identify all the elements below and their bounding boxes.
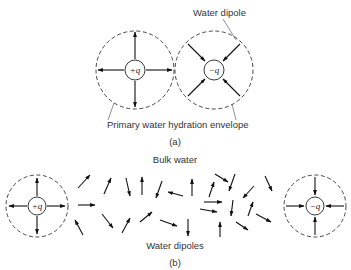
- negative-ion-hydration-shell: −q: [284, 175, 346, 237]
- dipole-arrow-icon: [209, 182, 214, 197]
- hydration-diagram: +q −q Water dipole Primary water hydrati…: [0, 0, 351, 270]
- dipole-arrow-icon: [126, 178, 130, 196]
- hydration-envelope-label: Primary water hydration envelope: [107, 119, 249, 130]
- caption-b: (b): [169, 257, 181, 268]
- dipole-arrow-icon: [75, 220, 83, 235]
- negative-charge-label: −q: [310, 201, 321, 211]
- caption-a: (a): [169, 136, 181, 147]
- dipole-arrow-icon: [236, 222, 248, 230]
- leader-line: [232, 104, 236, 120]
- dipole-arrow-icon: [156, 181, 162, 198]
- dipole-arrow-icon: [243, 186, 254, 198]
- dipole-arrow-icon: [229, 174, 235, 191]
- leader-line: [108, 103, 114, 120]
- dipole-arrow-icon: [265, 176, 272, 191]
- positive-charge-label: +q: [130, 65, 141, 75]
- bulk-water-dipoles: [75, 174, 272, 237]
- dipole-arrow-icon: [102, 214, 113, 228]
- dipole-arrow-icon: [104, 178, 111, 194]
- negative-ion-hydration-shell: −q: [175, 31, 253, 109]
- bulk-water-label: Bulk water: [153, 154, 197, 165]
- dipole-arrow-icon: [168, 192, 183, 196]
- positive-ion-hydration-shell: +q: [6, 175, 68, 237]
- dipole-arrow-icon: [122, 218, 130, 233]
- positive-ion-hydration-shell: +q: [96, 31, 174, 109]
- panel-b: Bulk water +q −q: [6, 154, 346, 268]
- dipole-arrow-icon: [223, 44, 240, 61]
- negative-charge-label: −q: [209, 65, 220, 75]
- water-dipoles-label: Water dipoles: [146, 240, 204, 251]
- dipole-arrow-icon: [140, 212, 152, 222]
- dipole-arrow-icon: [256, 214, 271, 222]
- dipole-arrow-icon: [231, 200, 233, 216]
- dipole-arrow-icon: [160, 220, 177, 226]
- positive-charge-label: +q: [32, 201, 43, 211]
- dipole-arrow-icon: [188, 44, 205, 61]
- dipole-arrow-icon: [223, 79, 240, 96]
- dipole-arrow-icon: [200, 209, 217, 212]
- dipole-arrow-icon: [215, 174, 228, 182]
- water-dipole-label: Water dipole: [193, 7, 246, 18]
- leader-line: [223, 19, 236, 40]
- dipole-arrow-icon: [78, 175, 90, 188]
- dipole-arrow-icon: [248, 202, 253, 216]
- dipole-arrow-icon: [188, 79, 205, 96]
- panel-a: +q −q Water dipole Primary water hydrati…: [96, 7, 253, 147]
